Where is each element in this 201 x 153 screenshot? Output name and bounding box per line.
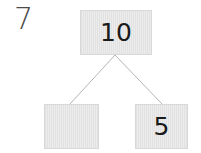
whole-value: 10 bbox=[100, 18, 132, 47]
whole-box: 10 bbox=[80, 10, 152, 55]
part-box-left[interactable] bbox=[44, 104, 99, 149]
part-right-value: 5 bbox=[154, 112, 170, 141]
connector-left bbox=[70, 55, 115, 104]
part-box-right: 5 bbox=[135, 104, 188, 149]
connector-right bbox=[115, 55, 162, 104]
